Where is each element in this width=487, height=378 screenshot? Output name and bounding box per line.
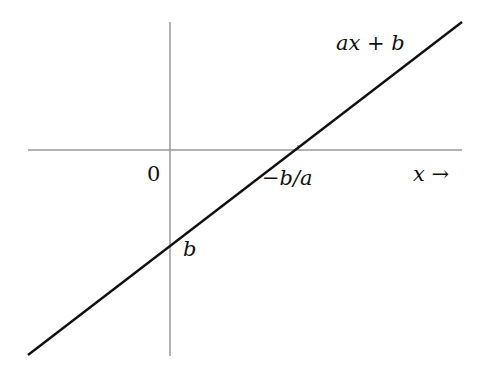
y-intercept-label: b: [183, 237, 196, 261]
x-intercept-label: −b/a: [262, 166, 313, 190]
x-axis-label: x →: [413, 162, 449, 186]
linear-function-diagram: ax + b 0 −b/a b x →: [0, 0, 487, 378]
function-line: [28, 22, 462, 355]
origin-label: 0: [147, 162, 160, 186]
line-label: ax + b: [336, 31, 405, 55]
